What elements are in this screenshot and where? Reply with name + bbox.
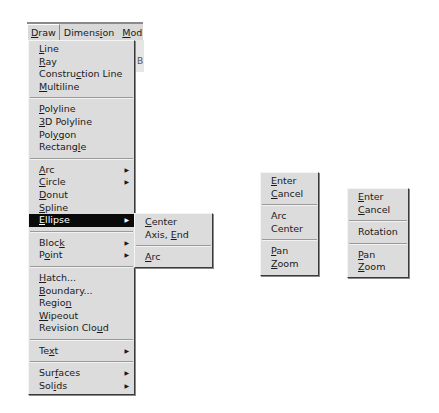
menu-item-arc[interactable]: Arc bbox=[261, 210, 318, 223]
mnemonic-underline: H bbox=[39, 272, 46, 283]
mnemonic-underline: o bbox=[44, 249, 50, 260]
menu-item-donut[interactable]: Donut bbox=[29, 189, 134, 202]
menu-item-polyline[interactable]: Polyline bbox=[29, 103, 134, 116]
menu-item-label: Boundary... bbox=[39, 285, 92, 296]
mnemonic-underline: C bbox=[358, 204, 365, 215]
menu-item-hatch[interactable]: Hatch... bbox=[29, 272, 134, 285]
menu-item-ray[interactable]: Ray bbox=[29, 56, 134, 69]
menu-item-label: Arc bbox=[145, 251, 160, 262]
menu-item-surfaces[interactable]: Surfaces▶ bbox=[29, 367, 134, 380]
menu-item-revision-cloud[interactable]: Revision Cloud bbox=[29, 322, 134, 335]
menu-item-label: Axis, End bbox=[145, 229, 189, 240]
menu-item-rectangle[interactable]: Rectangle bbox=[29, 141, 134, 154]
menu-item-enter[interactable]: Enter bbox=[348, 191, 408, 204]
menu-item-label: Surfaces bbox=[39, 367, 80, 378]
mnemonic-underline: W bbox=[39, 310, 48, 321]
mnemonic-underline: 3 bbox=[39, 116, 45, 127]
menu-item-block[interactable]: Block▶ bbox=[29, 237, 134, 250]
menu-item-region[interactable]: Region bbox=[29, 297, 134, 310]
menu-item-3d-polyline[interactable]: 3D Polyline bbox=[29, 116, 134, 129]
draw-menu: LineRayConstruction LineMultilinePolylin… bbox=[28, 40, 135, 395]
menu-item-rotation[interactable]: Rotation bbox=[348, 226, 408, 239]
mnemonic-underline: M bbox=[122, 27, 130, 38]
menu-separator bbox=[30, 97, 133, 99]
menu-separator bbox=[136, 245, 211, 247]
mnemonic-underline: u bbox=[97, 322, 103, 333]
menu-item-cancel[interactable]: Cancel bbox=[348, 204, 408, 217]
menu-modify[interactable]: Modi bbox=[118, 25, 143, 40]
menu-item-wipeout[interactable]: Wipeout bbox=[29, 310, 134, 323]
menu-separator bbox=[30, 158, 133, 160]
menu-item-label: Pan bbox=[271, 245, 288, 256]
mnemonic-underline: E bbox=[171, 229, 177, 240]
menu-item-multiline[interactable]: Multiline bbox=[29, 81, 134, 94]
menu-separator bbox=[262, 239, 317, 241]
menu-item-cancel[interactable]: Cancel bbox=[261, 188, 318, 201]
menu-item-label: Polyline bbox=[39, 103, 76, 114]
menu-item-arc[interactable]: Arc bbox=[135, 251, 212, 264]
menu-item-label: Center bbox=[145, 216, 177, 227]
menu-item-label: Multiline bbox=[39, 81, 79, 92]
mnemonic-underline: A bbox=[145, 251, 152, 262]
menu-item-boundary[interactable]: Boundary... bbox=[29, 285, 134, 298]
mnemonic-underline: R bbox=[39, 56, 45, 67]
mnemonic-underline: A bbox=[39, 164, 46, 175]
menu-item-label: Pan bbox=[358, 249, 375, 260]
menu-item-text[interactable]: Text▶ bbox=[29, 345, 134, 358]
menu-item-enter[interactable]: Enter bbox=[261, 175, 318, 188]
menu-item-label: Hatch... bbox=[39, 272, 76, 283]
menu-item-pan[interactable]: Pan bbox=[261, 245, 318, 258]
submenu-arrow-icon: ▶ bbox=[124, 249, 129, 262]
mnemonic-underline: k bbox=[59, 237, 65, 248]
menu-bar: Draw Dimension Modi bbox=[27, 22, 143, 40]
mnemonic-underline: S bbox=[39, 202, 45, 213]
menu-item-label: Cancel bbox=[271, 188, 303, 199]
menu-item-label: Rectangle bbox=[39, 141, 86, 152]
mnemonic-underline: l bbox=[78, 141, 81, 152]
menu-item-center[interactable]: Center bbox=[261, 223, 318, 236]
menu-item-solids[interactable]: Solids▶ bbox=[29, 380, 134, 393]
menu-item-label: Construction Line bbox=[39, 68, 122, 79]
menu-item-axis-end[interactable]: Axis, End bbox=[135, 229, 212, 242]
menu-dimension[interactable]: Dimension bbox=[60, 25, 119, 40]
mnemonic-underline: Z bbox=[358, 261, 365, 272]
menu-item-label: Rotation bbox=[358, 226, 398, 237]
mnemonic-underline: c bbox=[76, 68, 81, 79]
menu-item-zoom[interactable]: Zoom bbox=[348, 261, 408, 274]
submenu-arrow-icon: ▶ bbox=[124, 176, 129, 189]
menu-item-label: Wipeout bbox=[39, 310, 78, 321]
menu-item-center[interactable]: Center bbox=[135, 216, 212, 229]
menu-item-label: Solids bbox=[39, 380, 67, 391]
menu-separator bbox=[349, 243, 407, 245]
menu-item-arc[interactable]: Arc▶ bbox=[29, 164, 134, 177]
menu-item-label: Ray bbox=[39, 56, 57, 67]
menu-draw[interactable]: Draw bbox=[27, 24, 60, 40]
menu-item-point[interactable]: Point▶ bbox=[29, 249, 134, 262]
mnemonic-underline: C bbox=[145, 216, 152, 227]
mnemonic-underline: C bbox=[39, 176, 46, 187]
mnemonic-underline: B bbox=[39, 285, 46, 296]
menu-item-polygon[interactable]: Polygon bbox=[29, 129, 134, 142]
menu-item-line[interactable]: Line bbox=[29, 43, 134, 56]
menu-item-circle[interactable]: Circle▶ bbox=[29, 176, 134, 189]
mnemonic-underline: E bbox=[271, 175, 277, 186]
mnemonic-underline: x bbox=[49, 345, 55, 356]
menu-item-label: Point bbox=[39, 249, 63, 260]
menu-item-label: Block bbox=[39, 237, 65, 248]
mnemonic-underline: P bbox=[39, 103, 44, 114]
menu-item-label: Cancel bbox=[358, 204, 390, 215]
mnemonic-underline: n bbox=[66, 297, 72, 308]
menu-item-ellipse[interactable]: Ellipse▶ bbox=[29, 214, 134, 227]
mnemonic-underline: C bbox=[271, 188, 278, 199]
menu-item-label: Circle bbox=[39, 176, 66, 187]
menu-item-zoom[interactable]: Zoom bbox=[261, 258, 318, 271]
menu-separator bbox=[30, 361, 133, 363]
mnemonic-underline: D bbox=[39, 189, 46, 200]
menu-item-label: Polygon bbox=[39, 129, 76, 140]
menu-item-construction-line[interactable]: Construction Line bbox=[29, 68, 134, 81]
menu-item-pan[interactable]: Pan bbox=[348, 249, 408, 262]
submenu-arrow-icon: ▶ bbox=[124, 237, 129, 250]
menu-item-label: Donut bbox=[39, 189, 68, 200]
menu-item-spline[interactable]: Spline bbox=[29, 202, 134, 215]
menu-item-label: Text bbox=[39, 345, 58, 356]
